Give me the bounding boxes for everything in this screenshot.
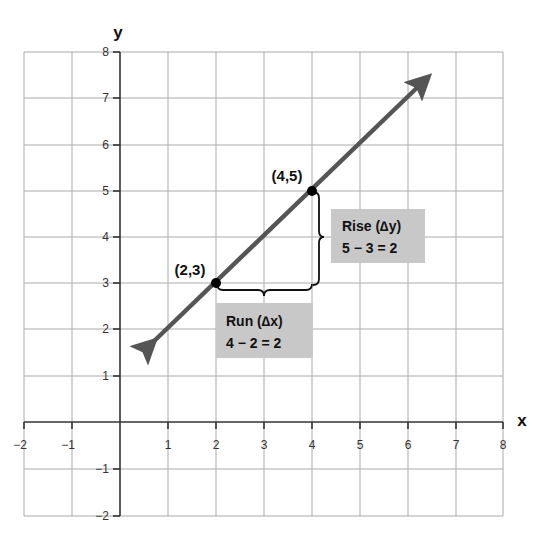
run-label: Run (∆x) (226, 313, 283, 329)
x-tick-label: 3 (261, 438, 268, 452)
y-tick-label: 8 (102, 45, 109, 59)
x-tick-label: −2 (13, 438, 27, 452)
slope-chart: 8 7 6 5 4 3 2 1 −1 −2 −2 −1 1 2 3 4 5 6 … (0, 0, 547, 543)
rise-label: Rise (∆y) (342, 218, 401, 234)
x-tick-label: 1 (165, 438, 172, 452)
x-tick-label: −1 (61, 438, 75, 452)
point-label-2-3: (2,3) (175, 261, 206, 278)
x-tick-label: 2 (213, 438, 220, 452)
y-tick-label: 6 (102, 138, 109, 152)
y-tick-label: 1 (102, 369, 109, 383)
y-tick-label: 5 (102, 184, 109, 198)
y-tick-label: −2 (95, 509, 109, 523)
point-2-3 (211, 278, 221, 288)
point-label-4-5: (4,5) (272, 167, 303, 184)
y-tick-labels: 8 7 6 5 4 3 2 1 −1 −2 (95, 45, 109, 523)
x-axis-label: x (517, 411, 527, 430)
rise-equation: 5 − 3 = 2 (342, 240, 397, 256)
run-equation: 4 − 2 = 2 (226, 335, 281, 351)
rise-brace (313, 192, 324, 285)
x-tick-labels: −2 −1 1 2 3 4 5 6 7 8 (13, 438, 507, 452)
point-4-5 (307, 186, 317, 196)
x-tick-label: 8 (500, 438, 507, 452)
y-tick-label: 4 (102, 230, 109, 244)
y-tick-label: −1 (95, 462, 109, 476)
y-tick-label: 3 (102, 276, 109, 290)
x-tick-label: 4 (309, 438, 316, 452)
y-axis-label: y (113, 23, 123, 42)
rise-annotation-box: Rise (∆y) 5 − 3 = 2 (331, 209, 425, 263)
run-annotation-box: Run (∆x) 4 − 2 = 2 (216, 303, 313, 358)
y-tick-label: 2 (102, 322, 109, 336)
y-tick-label: 7 (102, 91, 109, 105)
x-tick-label: 6 (405, 438, 412, 452)
x-tick-label: 7 (453, 438, 460, 452)
x-tick-label: 5 (357, 438, 364, 452)
